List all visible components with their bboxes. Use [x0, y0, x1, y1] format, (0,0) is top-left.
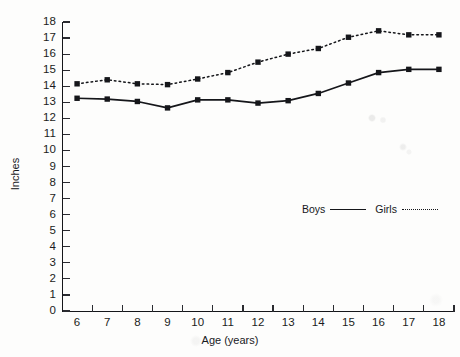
legend-label-girls: Girls [375, 203, 397, 215]
data-point-boys-age-8 [135, 99, 140, 104]
x-axis-title: Age (years) [0, 334, 460, 346]
data-point-girls-age-14 [316, 46, 321, 51]
line-chart: 0123456789101112131415161718 67891011121… [0, 0, 460, 357]
data-point-girls-age-15 [346, 35, 351, 40]
data-point-girls-age-7 [105, 77, 110, 82]
legend-swatch-dotted-line [402, 209, 438, 210]
series-line-girls [77, 31, 439, 85]
data-point-boys-age-14 [316, 91, 321, 96]
data-point-girls-age-16 [376, 28, 381, 33]
chart-legend: Boys Girls [302, 203, 438, 215]
data-point-girls-age-11 [225, 70, 230, 75]
data-point-girls-age-10 [195, 76, 200, 81]
legend-swatch-solid-line [330, 209, 366, 210]
data-point-girls-age-17 [406, 32, 411, 37]
data-point-girls-age-8 [135, 81, 140, 86]
data-point-boys-age-17 [406, 67, 411, 72]
data-point-boys-age-11 [225, 97, 230, 102]
data-point-boys-age-13 [285, 98, 290, 103]
data-point-girls-age-18 [436, 32, 441, 37]
legend-entry-boys: Boys [302, 203, 366, 215]
data-point-girls-age-12 [255, 59, 260, 64]
data-point-boys-age-9 [165, 105, 170, 110]
data-point-girls-age-13 [285, 51, 290, 56]
data-point-boys-age-6 [74, 96, 79, 101]
data-series-layer [0, 0, 460, 357]
y-axis-title: Inches [9, 139, 21, 209]
data-point-boys-age-10 [195, 97, 200, 102]
data-point-girls-age-6 [74, 81, 79, 86]
data-point-girls-age-9 [165, 82, 170, 87]
data-point-boys-age-7 [105, 96, 110, 101]
data-point-boys-age-12 [255, 100, 260, 105]
legend-entry-girls: Girls [375, 203, 438, 215]
data-point-boys-age-18 [436, 67, 441, 72]
data-point-boys-age-15 [346, 80, 351, 85]
data-point-boys-age-16 [376, 70, 381, 75]
legend-label-boys: Boys [302, 203, 325, 215]
